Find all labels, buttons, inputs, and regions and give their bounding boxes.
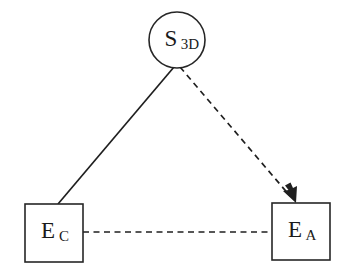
arrowhead-icon bbox=[283, 183, 297, 204]
diagram-canvas: S 3D E C E A bbox=[0, 0, 344, 278]
node-ec-label-sub: C bbox=[59, 228, 69, 244]
node-s3d-label-main: S bbox=[165, 26, 178, 51]
node-ea-label-sub: A bbox=[306, 227, 317, 243]
node-s3d-label-sub: 3D bbox=[181, 36, 200, 52]
edge-ec-to-s3d bbox=[58, 67, 174, 204]
edge-s3d-to-ea bbox=[180, 67, 290, 196]
diagram-figure: S 3D E C E A bbox=[0, 0, 344, 278]
node-ea-label-main: E bbox=[288, 217, 302, 242]
node-ec-label-main: E bbox=[41, 218, 55, 243]
